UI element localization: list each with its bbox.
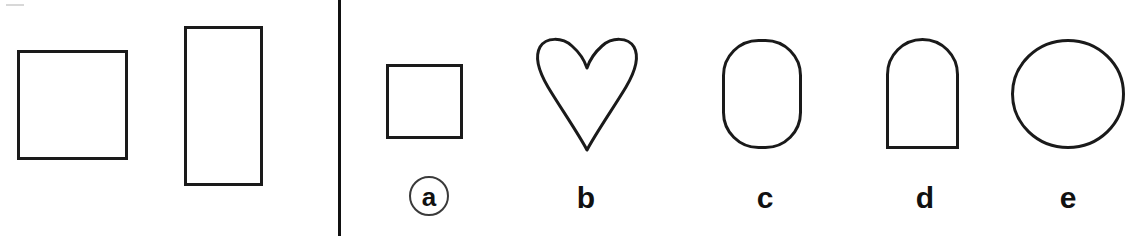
shape-label-a: a xyxy=(409,176,449,216)
figure-panel: a b c d e xyxy=(0,0,1135,236)
circle-outline-icon xyxy=(1011,39,1125,149)
square-outline-icon xyxy=(386,64,463,139)
labeled-shapes-panel: a b c d e xyxy=(0,0,1135,236)
shape-a-square xyxy=(386,64,463,139)
shape-b-heart xyxy=(534,37,640,151)
arch-outline-icon xyxy=(886,37,959,149)
heart-outline-icon xyxy=(534,37,640,151)
shape-label-b: b xyxy=(556,183,616,213)
shape-c-stadium xyxy=(722,39,802,149)
shape-label-c: c xyxy=(735,183,795,213)
shape-d-arch xyxy=(886,37,959,149)
shape-e-circle xyxy=(1011,39,1125,149)
stadium-outline-icon xyxy=(722,39,802,149)
shape-label-d: d xyxy=(895,183,955,213)
shape-label-e: e xyxy=(1038,183,1098,213)
